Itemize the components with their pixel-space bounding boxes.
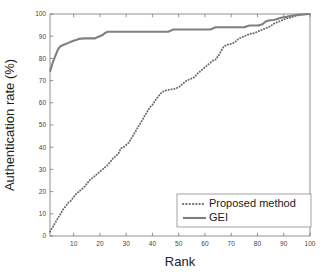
y-tick-label: 20	[39, 188, 47, 195]
x-tick-label: 70	[228, 240, 236, 247]
legend-label-gei: GEI	[209, 211, 228, 223]
x-tick-label: 90	[280, 240, 288, 247]
x-tick-label: 10	[70, 240, 78, 247]
cmc-curve-chart: 0102030405060708090100 10203040506070809…	[0, 0, 328, 272]
x-tick-label: 50	[175, 240, 183, 247]
y-axis-ticks: 0102030405060708090100	[35, 10, 53, 239]
y-tick-label: 40	[39, 144, 47, 151]
chart-figure: 0102030405060708090100 10203040506070809…	[0, 0, 328, 272]
x-tick-label: 60	[201, 240, 209, 247]
y-tick-label: 90	[39, 33, 47, 40]
y-tick-label: 100	[35, 10, 46, 17]
legend-label-proposed-method: Proposed method	[209, 197, 296, 209]
y-tick-label: 0	[42, 232, 46, 239]
x-tick-label: 100	[305, 240, 316, 247]
y-tick-label: 30	[39, 166, 47, 173]
x-tick-label: 80	[254, 240, 262, 247]
x-tick-label: 20	[96, 240, 104, 247]
series-line-gei	[50, 14, 310, 72]
y-tick-label: 60	[39, 99, 47, 106]
y-tick-label: 50	[39, 121, 47, 128]
x-axis-title: Rank	[165, 254, 196, 269]
x-tick-label: 30	[123, 240, 131, 247]
y-tick-label: 70	[39, 77, 47, 84]
y-tick-label: 10	[39, 210, 47, 217]
x-tick-label: 40	[149, 240, 157, 247]
y-axis-title: Authentication rate (%)	[2, 59, 17, 191]
y-tick-label: 80	[39, 55, 47, 62]
legend: Proposed method GEI	[177, 194, 311, 227]
